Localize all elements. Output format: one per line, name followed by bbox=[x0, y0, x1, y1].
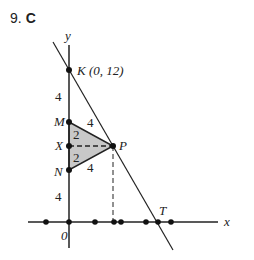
x-axis-dot bbox=[168, 219, 174, 225]
origin-dot bbox=[66, 219, 72, 225]
geometry-diagram: y x 0 K (0, 12) M X N P T 4 2 2 4 4 4 bbox=[0, 0, 254, 260]
label-k: K (0, 12) bbox=[76, 63, 124, 78]
x-axis-dot bbox=[143, 219, 149, 225]
point-k bbox=[66, 67, 72, 73]
x-axis-label: x bbox=[223, 214, 230, 229]
point-n bbox=[66, 167, 72, 173]
y-axis-label: y bbox=[63, 28, 71, 43]
length-km: 4 bbox=[55, 89, 62, 104]
length-no: 4 bbox=[55, 189, 62, 204]
point-t bbox=[155, 219, 161, 225]
x-axis-dot bbox=[92, 219, 98, 225]
point-p bbox=[110, 143, 116, 149]
x-axis-dot bbox=[118, 219, 124, 225]
point-m bbox=[66, 119, 72, 125]
point-x bbox=[66, 143, 72, 149]
origin-label: 0 bbox=[61, 228, 68, 243]
label-n: N bbox=[53, 164, 64, 179]
label-x: X bbox=[54, 138, 64, 153]
length-mp: 4 bbox=[87, 115, 94, 130]
length-np: 4 bbox=[87, 160, 94, 175]
length-xn: 2 bbox=[73, 150, 80, 165]
label-t: T bbox=[159, 203, 167, 218]
label-p: P bbox=[118, 138, 127, 153]
x-axis-dot bbox=[43, 219, 49, 225]
length-mx: 2 bbox=[73, 127, 80, 142]
x-axis-dot bbox=[111, 219, 117, 225]
label-m: M bbox=[53, 114, 66, 129]
